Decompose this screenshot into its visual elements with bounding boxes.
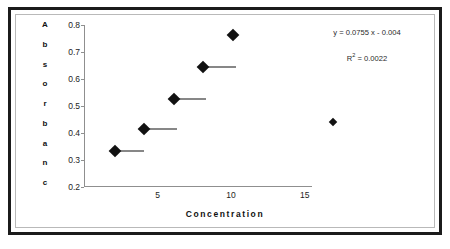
- y-axis-tick-labels: 0.80.70.60.50.40.30.2: [56, 21, 80, 187]
- y-axis-tick-mark: [81, 187, 84, 188]
- data-point-marker: [328, 118, 336, 126]
- y-axis-title-letter-4: r: [43, 100, 46, 108]
- scatter-chart: Absorbanc 0.80.70.60.50.40.30.2 51015 Co…: [16, 15, 434, 227]
- y-axis-tick-mark: [81, 79, 84, 80]
- x-axis-tick-label: 10: [226, 191, 235, 200]
- figure-inner-border: Absorbanc 0.80.70.60.50.40.30.2 51015 Co…: [15, 14, 435, 228]
- y-axis-tick-label: 0.8: [56, 21, 80, 30]
- y-axis-title-letter-6: a: [43, 140, 47, 148]
- y-axis-tick-mark: [81, 52, 84, 53]
- y-axis-tick-mark: [81, 160, 84, 161]
- r-squared-label: R2 = 0.0022: [302, 53, 432, 62]
- y-axis-tick-mark: [81, 133, 84, 134]
- data-point-marker: [226, 29, 239, 42]
- data-point-marker: [197, 60, 210, 73]
- y-axis-tick-label: 0.4: [56, 129, 80, 138]
- y-axis-tick-mark: [81, 25, 84, 26]
- x-axis-tick-label: 15: [300, 191, 309, 200]
- data-point-marker: [138, 123, 151, 136]
- y-axis-title-letter-5: b: [43, 120, 48, 128]
- y-axis-title-letter-0: A: [42, 21, 48, 29]
- y-axis-title-letter-7: n: [43, 159, 48, 167]
- x-axis-tick-labels: 51015: [84, 191, 312, 205]
- data-point-marker: [167, 93, 180, 106]
- y-axis-title-letter-3: o: [43, 80, 48, 88]
- data-point-marker: [109, 144, 122, 157]
- r-squared-value: = 0.0022: [355, 53, 387, 62]
- x-axis-tick-label: 5: [155, 191, 160, 200]
- plot-area: [84, 25, 312, 187]
- y-axis-tick-label: 0.2: [56, 183, 80, 192]
- y-axis-tick-label: 0.5: [56, 102, 80, 111]
- x-axis-line: [84, 186, 312, 187]
- y-axis-title: Absorbanc: [38, 21, 52, 187]
- chart-annotations: y = 0.0755 x - 0.004 R2 = 0.0022: [302, 29, 432, 62]
- y-axis-title-letter-2: s: [43, 61, 47, 69]
- regression-equation-label: y = 0.0755 x - 0.004: [302, 29, 432, 37]
- figure-outer-border: Absorbanc 0.80.70.60.50.40.30.2 51015 Co…: [8, 7, 442, 235]
- x-axis-title: Concentration: [16, 209, 434, 219]
- y-axis-tick-mark: [81, 106, 84, 107]
- y-axis-line: [84, 25, 85, 187]
- y-axis-tick-label: 0.3: [56, 156, 80, 165]
- y-axis-title-letter-8: c: [43, 179, 47, 187]
- y-axis-tick-label: 0.7: [56, 48, 80, 57]
- y-axis-tick-label: 0.6: [56, 75, 80, 84]
- y-axis-title-letter-1: b: [43, 41, 48, 49]
